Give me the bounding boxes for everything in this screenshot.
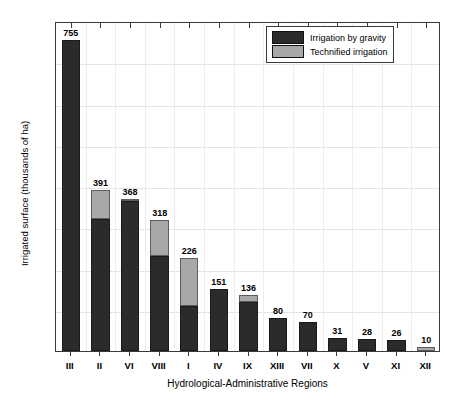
bar-segment-gravity[interactable] — [328, 338, 346, 351]
chart-legend: Irrigation by gravityTechnified irrigati… — [266, 26, 394, 63]
top-tick-mark — [71, 23, 72, 28]
legend-swatch — [272, 45, 304, 58]
x-tick-label-II: II — [97, 360, 102, 371]
vertical-gridline — [174, 23, 175, 351]
bar-value-label: 26 — [392, 328, 402, 338]
x-tick-mark — [99, 352, 100, 356]
legend-swatch — [272, 31, 304, 44]
bar-X[interactable]: 31 — [328, 338, 346, 351]
bar-value-label: 28 — [362, 327, 372, 337]
x-tick-mark — [159, 352, 160, 356]
x-axis-title: Hydrological-Administrative Regions — [55, 378, 440, 389]
bar-segment-gravity[interactable] — [180, 306, 198, 351]
bar-II[interactable]: 391 — [91, 190, 109, 351]
bar-segment-technified[interactable] — [121, 199, 139, 201]
vertical-gridline — [323, 23, 324, 351]
y-axis-title: Irrigated surface (thousands of ha) — [19, 74, 30, 314]
bar-III[interactable]: 755 — [62, 40, 80, 351]
x-tick-mark — [396, 352, 397, 356]
bar-value-label: 226 — [182, 246, 197, 256]
x-axis: Hydrological-Administrative Regions IIII… — [55, 352, 440, 402]
x-tick-label-IV: IV — [213, 360, 222, 371]
x-tick-mark — [277, 352, 278, 356]
vertical-gridline — [145, 23, 146, 351]
bar-value-label: 80 — [273, 306, 283, 316]
plot-area: 755391368318226151136807031282610 — [55, 22, 440, 352]
bar-segment-gravity[interactable] — [358, 339, 376, 351]
x-tick-label-X: X — [333, 360, 339, 371]
bar-segment-technified[interactable] — [91, 190, 109, 219]
bar-value-label: 70 — [303, 310, 313, 320]
x-tick-mark — [188, 352, 189, 356]
bar-value-label: 318 — [152, 208, 167, 218]
legend-item-1[interactable]: Technified irrigation — [272, 45, 388, 58]
x-tick-mark — [366, 352, 367, 356]
vertical-gridline — [382, 23, 383, 351]
bar-value-label: 151 — [211, 277, 226, 287]
bar-segment-technified[interactable] — [239, 295, 257, 302]
bar-IV[interactable]: 151 — [210, 289, 228, 351]
bar-VII[interactable]: 70 — [299, 322, 317, 351]
x-tick-mark — [307, 352, 308, 356]
y-axis: Irrigated surface (thousands of ha) 0100… — [0, 0, 55, 403]
bar-value-label: 368 — [123, 187, 138, 197]
x-tick-mark — [425, 352, 426, 356]
bar-value-label: 755 — [63, 28, 78, 38]
vertical-gridline — [115, 23, 116, 351]
bar-chart: Irrigated surface (thousands of ha) 0100… — [0, 0, 457, 403]
x-tick-mark — [248, 352, 249, 356]
bar-segment-gravity[interactable] — [121, 201, 139, 351]
bar-VIII[interactable]: 318 — [150, 220, 168, 351]
x-tick-label-VI: VI — [125, 360, 134, 371]
x-tick-mark — [336, 352, 337, 356]
bar-segment-gravity[interactable] — [239, 302, 257, 351]
legend-label: Irrigation by gravity — [310, 33, 386, 43]
top-tick-mark — [219, 23, 220, 28]
bar-V[interactable]: 28 — [358, 339, 376, 351]
top-tick-mark — [160, 23, 161, 28]
top-tick-mark — [100, 23, 101, 28]
x-tick-label-IX: IX — [243, 360, 252, 371]
top-tick-mark — [426, 23, 427, 28]
bar-segment-gravity[interactable] — [387, 340, 405, 351]
vertical-gridline — [352, 23, 353, 351]
vertical-gridline — [411, 23, 412, 351]
bar-segment-technified[interactable] — [150, 220, 168, 256]
bar-segment-technified[interactable] — [417, 347, 435, 351]
x-tick-label-XIII: XIII — [270, 360, 284, 371]
legend-item-0[interactable]: Irrigation by gravity — [272, 31, 388, 44]
bar-XII[interactable]: 10 — [417, 347, 435, 351]
x-tick-mark — [70, 352, 71, 356]
bar-value-label: 391 — [93, 178, 108, 188]
bar-XI[interactable]: 26 — [387, 340, 405, 351]
bar-segment-gravity[interactable] — [91, 219, 109, 351]
bar-segment-gravity[interactable] — [150, 256, 168, 351]
x-tick-label-I: I — [187, 360, 190, 371]
x-tick-label-III: III — [66, 360, 74, 371]
bar-XIII[interactable]: 80 — [269, 318, 287, 351]
bar-I[interactable]: 226 — [180, 258, 198, 351]
x-tick-label-V: V — [363, 360, 369, 371]
x-tick-mark — [218, 352, 219, 356]
bar-value-label: 31 — [332, 326, 342, 336]
vertical-gridline — [234, 23, 235, 351]
bar-value-label: 10 — [421, 335, 431, 345]
bar-IX[interactable]: 136 — [239, 295, 257, 351]
bar-segment-gravity[interactable] — [299, 322, 317, 351]
bar-segment-technified[interactable] — [180, 258, 198, 306]
vertical-gridline — [204, 23, 205, 351]
vertical-gridline — [86, 23, 87, 351]
bar-value-label: 136 — [241, 283, 256, 293]
top-tick-mark — [189, 23, 190, 28]
bar-segment-gravity[interactable] — [269, 318, 287, 351]
legend-label: Technified irrigation — [310, 47, 388, 57]
x-tick-mark — [129, 352, 130, 356]
bar-segment-gravity[interactable] — [210, 289, 228, 351]
x-tick-label-XI: XI — [391, 360, 400, 371]
top-tick-mark — [397, 23, 398, 28]
vertical-gridline — [263, 23, 264, 351]
bar-VI[interactable]: 368 — [121, 199, 139, 351]
x-tick-label-XII: XII — [419, 360, 431, 371]
bar-segment-gravity[interactable] — [62, 40, 80, 351]
vertical-gridline — [293, 23, 294, 351]
